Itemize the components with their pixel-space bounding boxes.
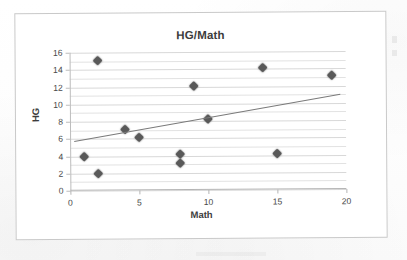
chart-frame: HG/Math HG 0246810121416 05101520 Math — [14, 11, 387, 240]
x-tick-label: 15 — [273, 197, 283, 207]
plot-area: 0246810121416 05101520 — [70, 51, 347, 191]
x-tick-mark — [208, 190, 209, 194]
x-tick-mark — [346, 189, 347, 193]
y-tick-label: 2 — [58, 169, 63, 179]
y-tick-label: 16 — [53, 48, 63, 58]
y-tick-label: 6 — [58, 134, 63, 144]
y-tick-label: 14 — [53, 65, 63, 75]
scan-artifact-top-right — [392, 36, 397, 43]
scan-artifact-bottom — [196, 252, 266, 256]
x-tick-mark — [277, 190, 278, 194]
y-tick-label: 8 — [58, 117, 63, 127]
scan-artifact-top-right-2 — [392, 50, 397, 56]
x-tick-label: 5 — [137, 197, 142, 207]
y-tick-label: 10 — [53, 100, 63, 110]
chart-title: HG/Math — [15, 28, 385, 42]
x-tick-label: 10 — [204, 197, 214, 207]
x-tick-mark — [70, 191, 71, 195]
y-tick-label: 4 — [58, 151, 63, 161]
trendline — [70, 51, 347, 191]
x-tick-mark — [139, 190, 140, 194]
x-tick-label: 20 — [342, 196, 352, 206]
y-tick-label: 0 — [59, 186, 64, 196]
x-axis-title: Math — [17, 208, 387, 221]
y-axis-title: HG — [30, 108, 41, 122]
x-tick-label: 0 — [68, 198, 73, 208]
y-tick-label: 12 — [53, 82, 63, 92]
